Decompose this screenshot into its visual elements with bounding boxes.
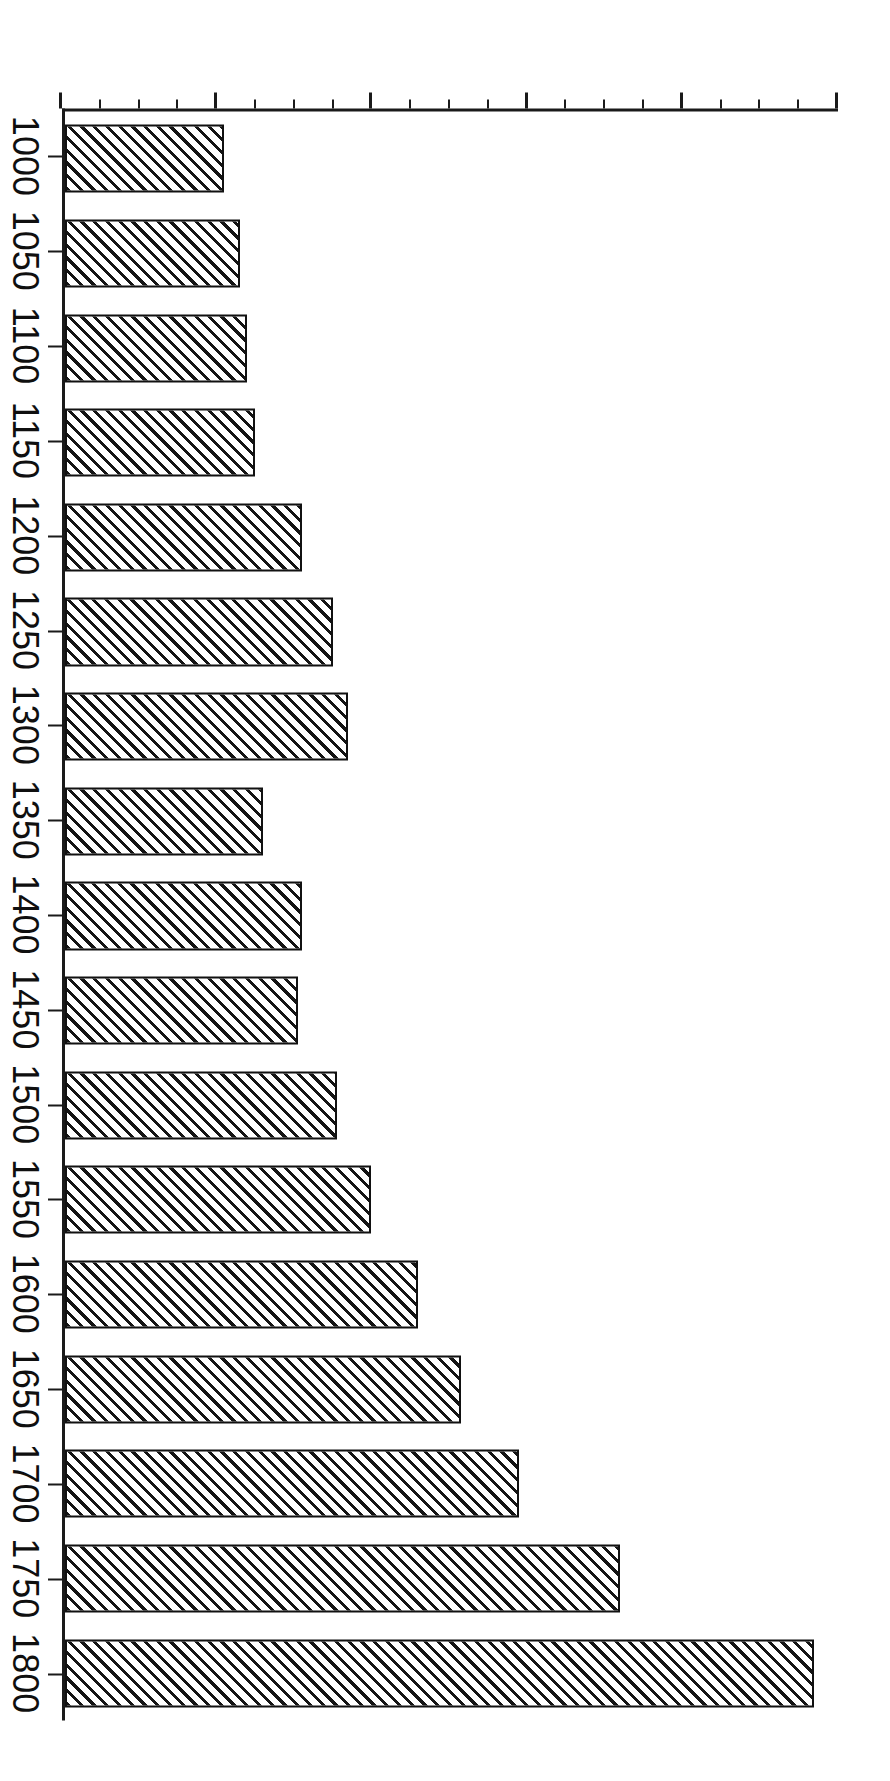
bar bbox=[65, 1544, 620, 1612]
category-label: 1450 bbox=[4, 961, 46, 1056]
category-axis-tick bbox=[48, 914, 62, 916]
category-label: 1550 bbox=[4, 1151, 46, 1246]
category-label: 1350 bbox=[4, 772, 46, 867]
bar bbox=[65, 408, 255, 476]
plot-area bbox=[62, 108, 838, 1720]
bar-chart-figure: 04080120160200 1000105011001150120012501… bbox=[0, 0, 890, 1781]
value-axis-minor-tick bbox=[564, 99, 566, 108]
bar-slot bbox=[65, 1341, 838, 1436]
bar bbox=[65, 881, 302, 949]
category-label: 1700 bbox=[4, 1436, 46, 1531]
bar bbox=[65, 124, 224, 192]
bar-slot bbox=[65, 963, 838, 1058]
category-axis-tick bbox=[48, 630, 62, 632]
category-axis-tick bbox=[48, 1483, 62, 1485]
value-axis-minor-tick bbox=[176, 99, 178, 108]
bar bbox=[65, 1071, 337, 1139]
category-axis-tick bbox=[48, 1009, 62, 1011]
rotated-figure-wrapper: 04080120160200 1000105011001150120012501… bbox=[0, 0, 890, 1781]
value-axis-minor-tick bbox=[758, 99, 760, 108]
category-axis-tick bbox=[48, 819, 62, 821]
value-axis-tick bbox=[369, 92, 372, 108]
value-axis-minor-tick bbox=[409, 99, 411, 108]
bar-slot bbox=[65, 1152, 838, 1247]
bar-slot bbox=[65, 1057, 838, 1152]
bar-slot bbox=[65, 1247, 838, 1342]
value-axis-minor-tick bbox=[293, 99, 295, 108]
value-axis-minor-tick bbox=[254, 99, 256, 108]
value-axis-tick bbox=[680, 92, 683, 108]
category-axis-tick bbox=[48, 724, 62, 726]
category-axis-tick bbox=[48, 535, 62, 537]
bar bbox=[65, 219, 240, 287]
bar bbox=[65, 1165, 372, 1233]
value-axis-tick bbox=[59, 92, 62, 108]
bar bbox=[65, 692, 348, 760]
category-label: 1050 bbox=[4, 203, 46, 298]
bar-slot bbox=[65, 206, 838, 301]
bar-slot bbox=[65, 111, 838, 206]
bar bbox=[65, 1260, 418, 1328]
value-axis-minor-tick bbox=[99, 99, 101, 108]
category-label: 1400 bbox=[4, 867, 46, 962]
value-axis-minor-tick bbox=[448, 99, 450, 108]
category-axis-tick bbox=[48, 1198, 62, 1200]
bar bbox=[65, 314, 247, 382]
category-label: 1200 bbox=[4, 487, 46, 582]
value-axis-minor-tick bbox=[487, 99, 489, 108]
category-label: 1500 bbox=[4, 1056, 46, 1151]
bar-slot bbox=[65, 1531, 838, 1626]
bar-slot bbox=[65, 1436, 838, 1531]
category-label: 1300 bbox=[4, 677, 46, 772]
bar bbox=[65, 1355, 461, 1423]
value-axis-minor-tick bbox=[138, 99, 140, 108]
category-axis-tick bbox=[48, 250, 62, 252]
category-axis-tick bbox=[48, 345, 62, 347]
value-axis-minor-tick bbox=[797, 99, 799, 108]
value-axis-tick bbox=[525, 92, 528, 108]
bar-slot bbox=[65, 395, 838, 490]
category-label: 1150 bbox=[4, 392, 46, 487]
value-axis-minor-tick bbox=[720, 99, 722, 108]
value-axis-minor-tick bbox=[642, 99, 644, 108]
bar-slot bbox=[65, 773, 838, 868]
bar-slot bbox=[65, 868, 838, 963]
bar bbox=[65, 597, 333, 665]
category-axis-tick bbox=[48, 1578, 62, 1580]
bar-slot bbox=[65, 679, 838, 774]
bar-slot bbox=[65, 584, 838, 679]
category-axis-tick bbox=[48, 1293, 62, 1295]
category-axis-tick bbox=[48, 155, 62, 157]
chart-page: 04080120160200 1000105011001150120012501… bbox=[0, 0, 890, 1781]
category-label: 1600 bbox=[4, 1246, 46, 1341]
category-axis-labels: 1000105011001150120012501300135014001450… bbox=[4, 108, 46, 1720]
bar bbox=[65, 1639, 814, 1707]
value-axis-tick bbox=[214, 92, 217, 108]
value-axis-minor-tick bbox=[332, 99, 334, 108]
value-axis-tick bbox=[835, 92, 838, 108]
bar bbox=[65, 976, 298, 1044]
bar-slot bbox=[65, 490, 838, 585]
bar-series bbox=[65, 111, 838, 1720]
bar bbox=[65, 1449, 519, 1517]
category-axis-tick bbox=[48, 1388, 62, 1390]
category-axis-tick bbox=[48, 1673, 62, 1675]
category-label: 1650 bbox=[4, 1341, 46, 1436]
category-label: 1800 bbox=[4, 1625, 46, 1720]
category-label: 1750 bbox=[4, 1530, 46, 1625]
bar bbox=[65, 787, 263, 855]
value-axis-minor-tick bbox=[603, 99, 605, 108]
bar-slot bbox=[65, 1625, 838, 1720]
bar-slot bbox=[65, 300, 838, 395]
category-label: 1250 bbox=[4, 582, 46, 677]
category-axis-tick bbox=[48, 1104, 62, 1106]
category-label: 1000 bbox=[4, 108, 46, 203]
category-axis-tick bbox=[48, 440, 62, 442]
bar bbox=[65, 503, 302, 571]
category-label: 1100 bbox=[4, 298, 46, 393]
